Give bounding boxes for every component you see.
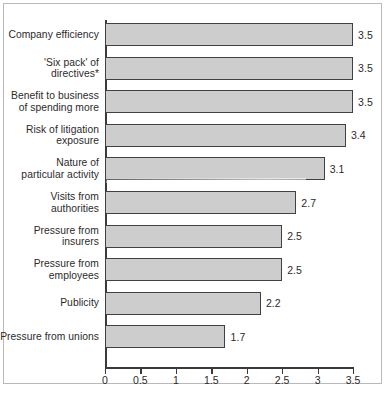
figure-container: Company efficiency'Six pack' of directiv… (0, 0, 386, 399)
category-label: Benefit to business of spending more (11, 90, 99, 113)
axis-tick-label: 2 (244, 374, 250, 386)
axis-tick-label: 2.5 (275, 374, 290, 386)
bar-value-label: 2.5 (287, 264, 302, 276)
bar[interactable] (105, 292, 261, 315)
axis-tick-label: 3.5 (346, 374, 361, 386)
bar[interactable] (105, 90, 353, 113)
bar-row: 2.5 (105, 258, 353, 281)
bar[interactable] (105, 124, 346, 147)
bar-value-label: 3.5 (358, 62, 373, 74)
bar[interactable] (105, 258, 282, 281)
bar-value-label: 3.5 (358, 29, 373, 41)
bar[interactable] (105, 57, 353, 80)
bar-row: 2.5 (105, 225, 353, 248)
category-axis-labels: Company efficiency'Six pack' of directiv… (0, 20, 99, 357)
bar-row: 2.7 (105, 191, 353, 214)
bar-value-label: 2.5 (287, 230, 302, 242)
category-label: Pressure from unions (0, 331, 99, 343)
axis-tick-label: 0.5 (133, 374, 148, 386)
bar-value-label: 2.7 (301, 197, 316, 209)
category-label: Pressure from insurers (34, 225, 99, 248)
bar[interactable] (105, 325, 225, 348)
category-label: Risk of litigation exposure (26, 124, 99, 147)
bar-value-label: 2.2 (266, 297, 281, 309)
bar-row: 2.2 (105, 292, 353, 315)
category-label: Visits from authorities (51, 191, 99, 214)
category-label: 'Six pack' of directives* (44, 57, 99, 80)
axis-tick-label: 1 (173, 374, 179, 386)
bar-value-label: 3.4 (351, 129, 366, 141)
bar-value-label: 3.5 (358, 96, 373, 108)
bar-row: 1.7 (105, 325, 353, 348)
bar-value-label: 3.1 (330, 163, 345, 175)
bar[interactable] (105, 23, 353, 46)
bar-row: 3.5 (105, 90, 353, 113)
bar[interactable] (105, 191, 296, 214)
bar-row: 3.1 (105, 157, 353, 180)
bar-row: 3.4 (105, 124, 353, 147)
bar-row: 3.5 (105, 57, 353, 80)
plot-area: 3.53.53.53.43.12.72.52.52.21.7 (105, 20, 353, 357)
category-label: Nature of particular activity (21, 157, 99, 180)
axis-tick-label: 3 (315, 374, 321, 386)
category-label: Company efficiency (8, 29, 99, 41)
bar-row: 3.5 (105, 23, 353, 46)
category-label: Pressure from employees (34, 258, 99, 281)
axis-tick-label: 0 (102, 374, 108, 386)
axis-tick-label: 1.5 (204, 374, 219, 386)
category-label: Publicity (60, 297, 99, 309)
bar[interactable] (105, 225, 282, 248)
bar[interactable] (105, 157, 325, 180)
bar-value-label: 1.7 (230, 331, 245, 343)
